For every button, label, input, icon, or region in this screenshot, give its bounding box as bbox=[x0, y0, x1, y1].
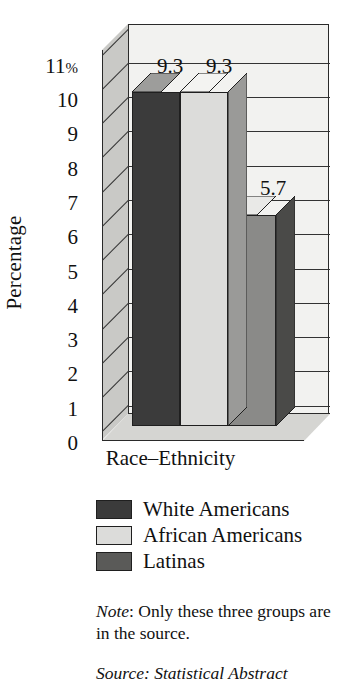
axis-side-wall-edge bbox=[102, 50, 103, 440]
legend-swatch-latinas bbox=[96, 552, 132, 571]
bar-side-face bbox=[228, 73, 247, 426]
legend-swatch-african-americans bbox=[96, 526, 132, 545]
data-label-latinas: 5.7 bbox=[259, 178, 287, 199]
bar-african-americans bbox=[180, 92, 228, 426]
data-label-african-americans: 9.3 bbox=[205, 56, 233, 77]
chart-floor-front-edge bbox=[102, 440, 304, 441]
axis-side-wall bbox=[102, 24, 130, 440]
bar-white-americans bbox=[132, 92, 180, 426]
legend-label-white-americans: White Americans bbox=[143, 499, 289, 520]
chart-figure: Percentage 11% 10 9 8 7 6 5 4 3 2 1 0 bbox=[0, 0, 341, 690]
chart-legend: White Americans African Americans Latina… bbox=[96, 496, 341, 574]
note-prefix: Note bbox=[96, 601, 129, 621]
legend-swatch-white-americans bbox=[96, 500, 132, 519]
chart-3d-box: 9.3 9.3 5.7 bbox=[0, 0, 341, 470]
data-label-white-americans: 9.3 bbox=[156, 56, 184, 77]
legend-item-african-americans: African Americans bbox=[96, 522, 341, 548]
chart-plot-area: Percentage 11% 10 9 8 7 6 5 4 3 2 1 0 bbox=[0, 0, 341, 470]
bar-front-face bbox=[180, 92, 228, 426]
bar-front-face bbox=[132, 92, 180, 426]
bar-side-face bbox=[276, 196, 295, 426]
legend-item-latinas: Latinas bbox=[96, 548, 341, 574]
x-axis-title: Race–Ethnicity bbox=[0, 446, 341, 471]
legend-item-white-americans: White Americans bbox=[96, 496, 341, 522]
legend-label-african-americans: African Americans bbox=[143, 525, 302, 546]
chart-source: Source: Statistical Abstract bbox=[96, 663, 341, 684]
note-text: : Only these three groups are in the sou… bbox=[96, 601, 331, 643]
legend-label-latinas: Latinas bbox=[143, 551, 205, 572]
chart-note: Note: Only these three groups are in the… bbox=[96, 600, 336, 645]
